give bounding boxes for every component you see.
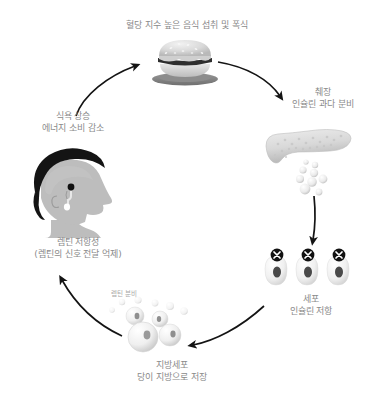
label-food-line1: 혈당 지수 높은 음식 섭취 및 폭식 xyxy=(126,20,247,30)
label-cells-line1: 세포 xyxy=(303,294,319,304)
fat-cells-icon xyxy=(98,294,198,356)
arrow-food-to-pancreas xyxy=(218,62,280,96)
label-leptin-resistance-line2: (렙틴의 신호 전달 억제) xyxy=(6,248,150,260)
label-leptin-resistance-line1: 렙틴 저항성 xyxy=(57,237,100,247)
label-fat-line2: 당이 지방으로 저장 xyxy=(110,371,234,383)
label-leptin-secretion: 렙틴 분비 xyxy=(96,290,152,298)
leptin-bubbles-icon xyxy=(109,296,188,314)
insulin-droplets xyxy=(296,159,327,195)
blocked-cells-icon xyxy=(261,247,353,291)
label-appetite-line2: 에너지 소비 감소 xyxy=(8,122,138,134)
label-food: 혈당 지수 높은 음식 섭취 및 폭식 xyxy=(0,19,374,31)
label-leptin-resistance: 렙틴 저항성 (렙틴의 신호 전달 억제) xyxy=(6,236,150,260)
label-fat: 지방세포 당이 지방으로 저장 xyxy=(110,359,234,383)
label-appetite-line1: 식욕 상승 xyxy=(56,111,91,121)
label-fat-line1: 지방세포 xyxy=(156,360,188,370)
pancreas-icon xyxy=(262,122,358,218)
label-leptin-secretion-line1: 렙틴 분비 xyxy=(111,290,137,298)
head-profile-icon xyxy=(27,146,133,238)
label-pancreas-line1: 췌장 xyxy=(315,87,331,97)
label-cells-line2: 인슐린 저항 xyxy=(258,305,364,317)
label-pancreas: 췌장 인슐린 과다 분비 xyxy=(272,86,374,110)
hamburger-icon xyxy=(147,38,223,86)
diagram-canvas: 혈당 지수 높은 음식 섭취 및 폭식 췌장 인슐린 과다 분비 세포 인슐린 … xyxy=(0,0,374,408)
arrow-appetite-to-food xyxy=(76,66,135,116)
label-pancreas-line2: 인슐린 과다 분비 xyxy=(272,98,374,110)
label-cells: 세포 인슐린 저항 xyxy=(258,293,364,317)
label-appetite: 식욕 상승 에너지 소비 감소 xyxy=(8,110,138,134)
arrow-cells-to-fat xyxy=(193,306,264,345)
